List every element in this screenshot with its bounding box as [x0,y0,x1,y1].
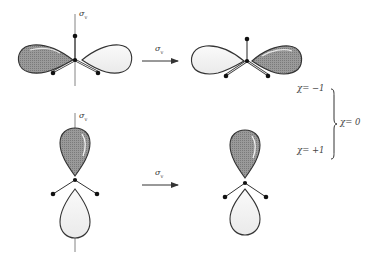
mirror-label-top: σv [79,9,87,20]
molecule-bottom-before [51,113,100,252]
character-total: χ= 0 [340,117,360,127]
brace [331,89,337,159]
symmetry-diagram [0,0,376,257]
atom-top [245,37,250,42]
molecule-top-before [18,14,131,86]
lobe-top-shaded [230,130,260,178]
atom-center [73,58,77,62]
atom-center [245,59,249,63]
molecule-top-after [192,37,302,79]
atom-left [51,192,56,197]
character-minus-one: χ= −1 [297,83,325,93]
atom-center [243,181,247,185]
atom-left [51,71,56,76]
atom-center [73,178,77,182]
lobe-bottom-unshaded [230,189,260,235]
atom-left [224,74,229,79]
mirror-label-bottom: σv [79,111,87,122]
atom-right [264,195,269,200]
lobe-top-shaded [60,128,90,176]
molecule-bottom-after [223,130,269,235]
arrow-label-bottom: σv [155,168,163,179]
character-plus-one: χ= +1 [297,145,325,155]
atom-left [223,195,228,200]
atom-right [96,71,101,76]
lobe-left-unshaded [192,46,244,74]
atom-right [266,74,271,79]
lobe-bottom-unshaded [60,189,90,238]
arrow-label-top: σv [155,44,163,55]
atom-top [73,34,78,39]
atom-right [95,192,100,197]
lobe-left-shaded [18,45,73,73]
